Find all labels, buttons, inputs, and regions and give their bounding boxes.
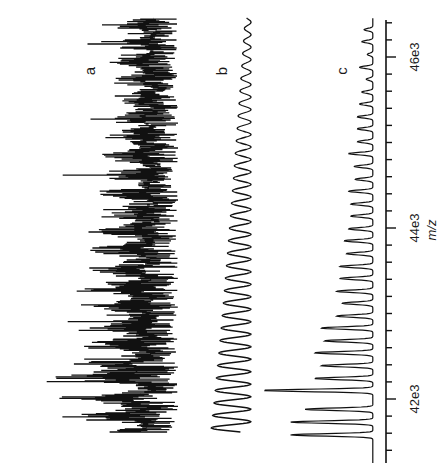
axis-ticks xyxy=(386,23,396,451)
panel-label-b: b xyxy=(213,67,230,75)
panel-label-c: c xyxy=(333,67,350,75)
tick-label-46e3: 46e3 xyxy=(407,43,422,72)
tick-label-42e3: 42e3 xyxy=(407,385,422,414)
spectrum-b xyxy=(211,18,251,432)
mass-spectrum-figure: 42e3 44e3 46e3 m/z a b c xyxy=(0,0,446,475)
spectra-group xyxy=(47,18,373,463)
spectrum-c xyxy=(265,18,373,463)
mz-axis xyxy=(386,20,396,463)
spectrum-a xyxy=(47,18,178,432)
panel-label-a: a xyxy=(81,66,98,75)
axis-label-mz: m/z xyxy=(424,219,439,240)
tick-label-44e3: 44e3 xyxy=(407,214,422,243)
